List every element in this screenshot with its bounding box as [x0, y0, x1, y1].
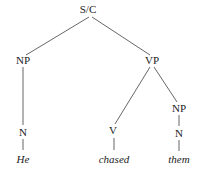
word-them: them: [168, 153, 189, 165]
syntax-tree: S/C NP VP N V NP N He chased them: [0, 0, 205, 174]
node-vp: VP: [145, 54, 159, 66]
edge-root-vp: [92, 17, 150, 55]
node-n-object: N: [175, 127, 183, 139]
node-np-subject: NP: [16, 54, 30, 66]
word-chased: chased: [99, 153, 130, 165]
node-np-object: NP: [172, 102, 186, 114]
word-he: He: [16, 153, 30, 165]
edge-vp-np: [154, 67, 177, 102]
node-s-c: S/C: [80, 3, 97, 15]
node-v: V: [109, 124, 117, 136]
edge-root-np: [26, 17, 89, 55]
node-n-subject: N: [19, 126, 27, 138]
edge-vp-v: [115, 67, 150, 124]
